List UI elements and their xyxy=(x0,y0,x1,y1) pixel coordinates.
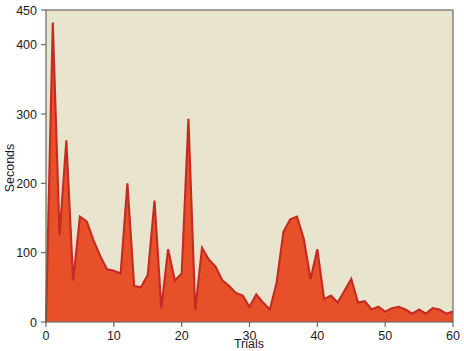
y-axis-title: Seconds xyxy=(3,144,17,193)
x-tick-label: 10 xyxy=(107,329,121,343)
x-tick-label: 50 xyxy=(378,329,392,343)
x-tick-label: 60 xyxy=(446,329,460,343)
x-tick-label: 0 xyxy=(43,329,50,343)
x-tick-label: 20 xyxy=(175,329,189,343)
y-tick-label: 200 xyxy=(16,177,37,191)
y-tick-label: 300 xyxy=(16,108,37,122)
y-tick-label: 400 xyxy=(16,38,37,52)
chart-container: 0100200300400450 0102030405060 Seconds T… xyxy=(0,0,464,351)
area-chart: 0100200300400450 0102030405060 Seconds T… xyxy=(0,0,464,351)
x-tick-label: 40 xyxy=(310,329,324,343)
y-tick-label: 100 xyxy=(16,246,37,260)
x-axis-title: Trials xyxy=(234,337,264,351)
y-tick-label: 0 xyxy=(30,316,37,330)
y-tick-label: 450 xyxy=(16,4,37,18)
y-axis-ticks: 0100200300400450 xyxy=(16,4,46,330)
